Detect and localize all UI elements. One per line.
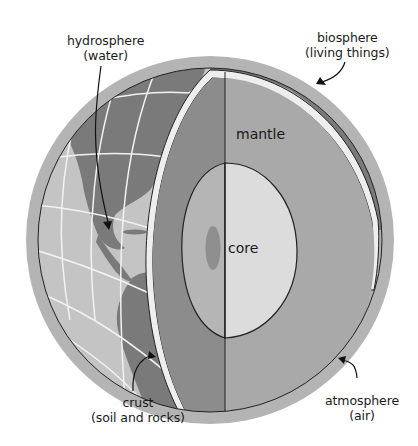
biosphere-arrow [322,62,345,82]
earth-spheres-diagram [0,0,418,446]
atmosphere-label-line1: atmosphere [325,393,399,408]
atmosphere-label: atmosphere (air) [325,393,399,423]
core-label: core [228,240,258,256]
hydrosphere-label-line1: hydrosphere [67,33,144,48]
hydrosphere-label-line2: (water) [67,48,144,63]
biosphere-label-line2: (living things) [305,45,390,60]
biosphere-label-line1: biosphere [305,30,390,45]
biosphere-label: biosphere (living things) [305,30,390,60]
caribbean-islands [123,230,147,235]
inner-core [206,226,221,270]
atmosphere-label-line2: (air) [325,408,399,423]
mantle-label: mantle [236,126,285,142]
crust-label-line1: crust [91,395,185,410]
hydrosphere-label: hydrosphere (water) [67,33,144,63]
crust-label-line2: (soil and rocks) [91,410,185,425]
crust-label: crust (soil and rocks) [91,395,185,425]
